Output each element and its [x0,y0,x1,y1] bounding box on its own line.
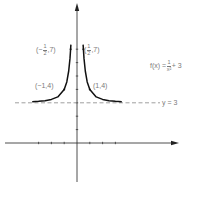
point-marker [63,88,65,90]
point-label-pos-half: (12,7) [84,44,100,56]
point-marker [89,88,91,90]
point-marker [70,48,72,50]
function-label: f(x) =1x²+ 3 [150,60,182,72]
x-axis-arrow-icon [171,141,179,145]
point-label-pos-one: (1,4) [93,82,107,89]
point-label-neg-half: (−12,7) [36,44,56,56]
asymptote-label: y = 3 [162,99,177,106]
y-axis-arrow-icon [75,3,79,11]
point-label-neg-one: (−1,4) [35,82,53,89]
